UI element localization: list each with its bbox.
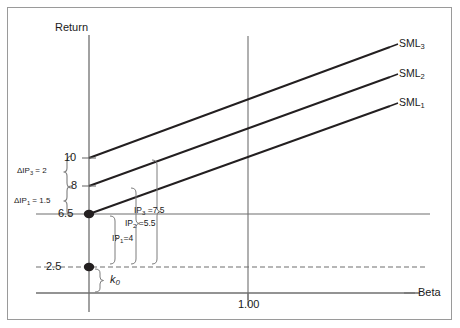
sml1-label-subscript: 1 bbox=[421, 101, 425, 110]
value-label-10: 10 bbox=[64, 152, 76, 163]
x-tick-label-1: 1.00 bbox=[238, 299, 259, 310]
sml3-line bbox=[89, 47, 390, 158]
delta-ip1-suffix: = 1.5 bbox=[30, 196, 50, 205]
value-label-8: 8 bbox=[71, 180, 77, 191]
sml1-label: SML1 bbox=[399, 97, 425, 110]
value-label-2-5: 2.5 bbox=[46, 261, 61, 272]
ip3-suffix: =7.5 bbox=[145, 205, 164, 215]
k0-subscript: 0 bbox=[116, 278, 120, 287]
chart-canvas bbox=[0, 0, 460, 328]
delta-ip1-prefix: ΔIP bbox=[14, 196, 27, 205]
k0-label: k0 bbox=[110, 274, 120, 287]
sml2-label: SML2 bbox=[399, 68, 425, 81]
point-marker-2-5 bbox=[84, 263, 94, 271]
x-axis-title: Beta bbox=[418, 287, 441, 298]
sml3-label-connector bbox=[390, 44, 398, 47]
ip2-label: IP2 =5.5 bbox=[125, 219, 156, 229]
ip2-suffix: =5.5 bbox=[136, 218, 155, 228]
value-label-6-5: 6.5 bbox=[58, 208, 73, 219]
point-marker-6-5 bbox=[84, 210, 94, 218]
ip1-suffix: =4 bbox=[123, 233, 133, 243]
sml2-label-subscript: 2 bbox=[421, 72, 425, 81]
brace-k0 bbox=[95, 269, 104, 292]
sml3-label-text: SML bbox=[399, 37, 421, 49]
delta-ip1-label: ΔIP1 = 1.5 bbox=[14, 197, 50, 206]
ip2-prefix: IP bbox=[125, 218, 133, 228]
chart-figure: Return Beta 1.00 10 8 6.5 2.5 SML3 SML2 … bbox=[0, 0, 460, 328]
delta-ip3-suffix: = 2 bbox=[33, 166, 47, 175]
sml3-label-subscript: 3 bbox=[421, 42, 425, 51]
ip1-prefix: IP bbox=[112, 233, 120, 243]
sml1-label-text: SML bbox=[399, 96, 421, 108]
sml2-label-connector bbox=[390, 74, 398, 77]
ip3-label: IP3 =7.5 bbox=[134, 206, 165, 216]
ip3-prefix: IP bbox=[134, 205, 142, 215]
delta-ip3-prefix: ΔIP bbox=[17, 166, 30, 175]
sml3-label: SML3 bbox=[399, 38, 425, 51]
y-axis-title: Return bbox=[55, 22, 88, 33]
sml2-line bbox=[89, 77, 390, 186]
ip1-label: IP1=4 bbox=[112, 234, 133, 244]
sml1-label-connector bbox=[390, 103, 398, 106]
delta-ip3-label: ΔIP3 = 2 bbox=[17, 167, 47, 176]
sml1-line bbox=[89, 106, 390, 214]
sml2-label-text: SML bbox=[399, 67, 421, 79]
